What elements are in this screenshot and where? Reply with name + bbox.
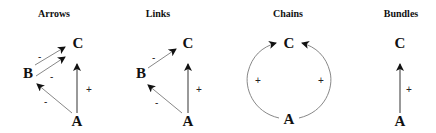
sign-b-to-c-lower: - xyxy=(50,71,53,82)
node-a: A xyxy=(183,113,194,129)
edge-a-to-c-left xyxy=(247,43,279,118)
edge-a-to-b xyxy=(37,84,72,113)
node-c: C xyxy=(73,35,84,51)
node-b: B xyxy=(136,65,146,81)
panel-title: Bundles xyxy=(384,8,419,19)
panel-title: Chains xyxy=(273,8,303,19)
panel-bundles: Bundles C A + xyxy=(384,8,419,129)
panel-title: Links xyxy=(146,8,171,19)
panel-chains: Chains C A + + xyxy=(247,8,331,127)
node-c: C xyxy=(183,35,194,51)
edge-a-to-b xyxy=(148,85,182,113)
sign-b-to-c-upper: - xyxy=(38,51,41,62)
panel-links: Links C B A + - - xyxy=(136,8,202,129)
panel-title: Arrows xyxy=(38,8,70,19)
sign-b-to-c: - xyxy=(152,52,155,63)
node-a: A xyxy=(395,113,406,129)
node-c: C xyxy=(395,35,406,51)
node-a: A xyxy=(284,111,295,127)
sign-a-to-c: + xyxy=(406,84,412,95)
diagram-canvas: Arrows C B A + - - - Links C B A + - - C… xyxy=(0,0,436,133)
sign-a-to-c: + xyxy=(86,84,92,95)
panel-arrows: Arrows C B A + - - - xyxy=(23,8,92,129)
sign-a-to-c: + xyxy=(196,84,202,95)
sign-a-to-c-right: + xyxy=(318,75,324,86)
node-b: B xyxy=(23,65,33,81)
node-c: C xyxy=(284,35,295,51)
edge-a-to-c-right xyxy=(299,43,331,118)
sign-a-to-b: - xyxy=(44,96,47,107)
sign-a-to-c-left: + xyxy=(255,75,261,86)
sign-a-to-b: - xyxy=(155,97,158,108)
node-a: A xyxy=(72,113,83,129)
